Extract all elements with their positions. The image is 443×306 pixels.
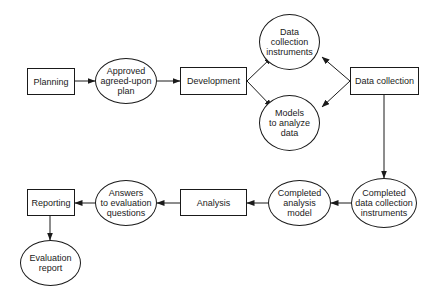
node-reporting: Reporting	[27, 189, 75, 216]
node-label: Completed analysis model	[278, 188, 322, 218]
node-label: Data collection	[355, 76, 414, 86]
node-label: Development	[187, 76, 240, 86]
node-data-collection-instruments: Data collection instruments	[259, 14, 320, 70]
node-analysis: Analysis	[180, 189, 247, 216]
node-completed-analysis-model: Completed analysis model	[268, 180, 331, 226]
node-label: Analysis	[197, 198, 231, 208]
node-label: Answers to evaluation questions	[100, 188, 151, 218]
node-answers-to-evaluation-questions: Answers to evaluation questions	[95, 180, 157, 226]
edge-datacollection-to-instruments	[322, 57, 350, 81]
node-completed-data-collection-instruments: Completed data collection instruments	[351, 178, 417, 228]
node-label: Planning	[33, 77, 68, 87]
node-label: Evaluation report	[29, 253, 71, 273]
edge-datacollection-to-models	[322, 81, 350, 107]
node-data-collection: Data collection	[350, 67, 419, 95]
node-planning: Planning	[27, 68, 75, 95]
node-label: Models to analyze data	[269, 108, 310, 138]
node-approved-plan: Approved agreed-upon plan	[95, 58, 157, 104]
node-label: Data collection instruments	[266, 27, 313, 57]
node-evaluation-report: Evaluation report	[20, 240, 81, 286]
node-label: Completed data collection instruments	[355, 188, 413, 218]
node-development: Development	[180, 67, 247, 95]
node-models-to-analyze-data: Models to analyze data	[259, 95, 320, 151]
node-label: Approved agreed-upon plan	[100, 66, 151, 96]
node-label: Reporting	[31, 198, 70, 208]
